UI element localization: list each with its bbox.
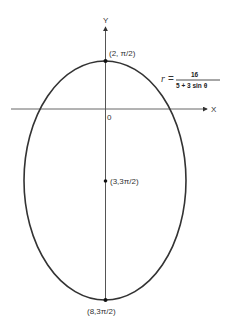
point-bottom-vertex — [104, 298, 108, 302]
x-axis-label: X — [211, 105, 217, 114]
y-axis-label: Y — [103, 16, 109, 25]
equation-denominator: 5 + 3 sin θ — [176, 82, 208, 89]
point-top-vertex — [104, 59, 108, 63]
equation-lhs: r — [161, 73, 165, 84]
bottom-vertex-label: (8,3π/2) — [87, 307, 116, 316]
top-vertex-label: (2, π/2) — [109, 49, 136, 58]
equation-numerator: 16 — [191, 71, 199, 78]
center-label: (3,3π/2) — [110, 177, 139, 186]
polar-ellipse-diagram: Y X 0 (2, π/2) (3,3π/2) (8,3π/2) r = 16 … — [0, 0, 230, 326]
point-center — [104, 179, 108, 183]
origin-label: 0 — [107, 113, 112, 122]
equation-equals: = — [168, 73, 174, 84]
equation: r = 16 5 + 3 sin θ — [161, 71, 220, 89]
